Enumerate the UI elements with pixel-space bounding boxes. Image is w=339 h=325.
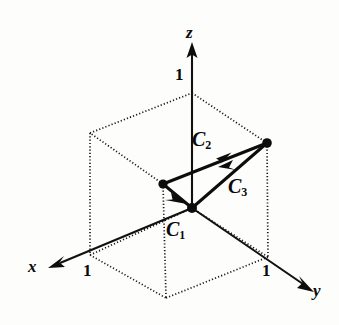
vertex-dot-right-top xyxy=(262,138,272,148)
curve-label-c3: C3 xyxy=(228,176,247,196)
curve-segments xyxy=(163,143,267,208)
curve-label-c1-base: C xyxy=(166,218,179,240)
curve-label-c3-base: C xyxy=(228,175,241,197)
x-axis-tick-label: 1 xyxy=(83,262,92,279)
cube-edge-bottom-left-front xyxy=(90,255,166,298)
x-axis-label: x xyxy=(28,258,37,275)
z-axis-label: z xyxy=(186,24,193,41)
y-axis-line xyxy=(192,208,303,284)
curve-label-c2: C2 xyxy=(192,129,211,149)
vertex-dot-origin xyxy=(187,203,197,213)
cube-edge-top-front-left xyxy=(90,133,163,184)
z-axis-tick-label: 1 xyxy=(175,66,184,83)
arrow-right-icon xyxy=(297,276,314,292)
cube-edge-vertical-front xyxy=(163,184,166,298)
curve-label-c1: C1 xyxy=(166,219,185,239)
cube-edge-bottom-front-right xyxy=(166,257,268,298)
vertex-dot-front-top xyxy=(158,179,167,188)
y-axis-label: y xyxy=(313,282,321,299)
figure-canvas: z x y 1 1 1 C1 C2 C3 xyxy=(0,0,339,325)
curve-label-c1-sub: 1 xyxy=(179,228,185,242)
curve-label-c2-sub: 2 xyxy=(205,138,211,152)
y-axis-tick-label: 1 xyxy=(262,262,271,279)
cube-edge-top-left-back xyxy=(90,93,192,133)
curve-label-c3-sub: 3 xyxy=(241,185,247,199)
curve-c1-path xyxy=(163,184,192,208)
cube-edge-vertical-right xyxy=(267,143,268,257)
three-d-cube-diagram xyxy=(0,0,339,325)
curve-label-c2-base: C xyxy=(192,128,205,150)
curve-c2-path xyxy=(163,143,267,184)
